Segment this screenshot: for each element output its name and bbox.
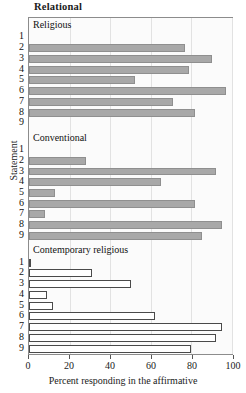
panel-bars <box>29 18 232 131</box>
y-tick-2: 2 <box>19 42 24 52</box>
bar <box>29 168 216 176</box>
bar-row <box>29 76 232 84</box>
x-tick-mark <box>233 355 234 359</box>
bar-row <box>29 291 232 299</box>
y-tick-7: 7 <box>19 96 24 106</box>
x-tick-mark <box>192 355 193 359</box>
bar <box>29 55 212 63</box>
panel-contemporary-religious: Contemporary religious <box>29 243 232 356</box>
y-axis-title: Statement <box>8 121 19 201</box>
y-tick-6: 6 <box>19 198 24 208</box>
bar-row <box>29 200 232 208</box>
y-tick-2: 2 <box>19 155 24 165</box>
bar-row <box>29 33 232 41</box>
x-tick-label-20: 20 <box>64 360 74 371</box>
y-tick-5: 5 <box>19 187 24 197</box>
x-axis: 020406080100 <box>28 355 233 356</box>
relational-bar-chart: Relational 123456789123456789123456789 S… <box>0 0 246 393</box>
bar-row <box>29 259 232 267</box>
bar <box>29 98 173 106</box>
bar <box>29 269 92 277</box>
x-tick-label-80: 80 <box>187 360 197 371</box>
bar-row <box>29 168 232 176</box>
bar-row <box>29 269 232 277</box>
y-tick-5: 5 <box>19 74 24 84</box>
bar <box>29 291 47 299</box>
y-tick-8: 8 <box>19 332 24 342</box>
bar-row <box>29 157 232 165</box>
y-tick-1: 1 <box>19 31 24 41</box>
y-tick-9: 9 <box>19 230 24 240</box>
x-tick-label-60: 60 <box>146 360 156 371</box>
bar-row <box>29 87 232 95</box>
y-tick-6: 6 <box>19 310 24 320</box>
bar-row <box>29 119 232 127</box>
bar <box>29 109 195 117</box>
bar <box>29 76 135 84</box>
bar-row <box>29 44 232 52</box>
y-tick-6: 6 <box>19 85 24 95</box>
bar <box>29 44 185 52</box>
bar <box>29 259 31 267</box>
y-tick-3: 3 <box>19 53 24 63</box>
bar-row <box>29 146 232 154</box>
bar-row <box>29 189 232 197</box>
bar-row <box>29 55 232 63</box>
x-tick-label-100: 100 <box>226 360 241 371</box>
panel-bars <box>29 131 232 244</box>
bar-row <box>29 345 232 353</box>
x-tick-mark <box>151 355 152 359</box>
y-tick-1: 1 <box>19 144 24 154</box>
x-tick-mark <box>69 355 70 359</box>
bar-row <box>29 109 232 117</box>
bar <box>29 157 86 165</box>
bar <box>29 345 191 353</box>
y-tick-2: 2 <box>19 267 24 277</box>
y-tick-5: 5 <box>19 300 24 310</box>
x-axis-title: Percent responding in the affirmative <box>0 375 246 386</box>
bar-row <box>29 66 232 74</box>
bar <box>29 280 131 288</box>
y-tick-4: 4 <box>19 64 24 74</box>
bar <box>29 302 53 310</box>
bar <box>29 323 222 331</box>
bar-row <box>29 323 232 331</box>
bar-row <box>29 98 232 106</box>
y-tick-7: 7 <box>19 321 24 331</box>
bar-row <box>29 312 232 320</box>
y-tick-1: 1 <box>19 257 24 267</box>
bar <box>29 178 161 186</box>
y-tick-7: 7 <box>19 208 24 218</box>
y-tick-4: 4 <box>19 289 24 299</box>
bar <box>29 66 189 74</box>
bar <box>29 312 155 320</box>
x-tick-mark <box>28 355 29 359</box>
bar <box>29 189 55 197</box>
bar <box>29 210 45 218</box>
bar-row <box>29 334 232 342</box>
y-tick-3: 3 <box>19 278 24 288</box>
x-tick-label-40: 40 <box>105 360 115 371</box>
panel-religious: Religious <box>29 18 232 131</box>
y-tick-9: 9 <box>19 343 24 353</box>
y-tick-8: 8 <box>19 219 24 229</box>
bar-row <box>29 280 232 288</box>
bar-row <box>29 232 232 240</box>
panel-conventional: Conventional <box>29 131 232 244</box>
bar-row <box>29 302 232 310</box>
gridline <box>232 18 233 354</box>
bar <box>29 221 222 229</box>
y-tick-4: 4 <box>19 176 24 186</box>
bar <box>29 334 216 342</box>
y-tick-9: 9 <box>19 117 24 127</box>
y-tick-3: 3 <box>19 166 24 176</box>
plot-area: ReligiousConventionalContemporary religi… <box>28 17 233 355</box>
panel-bars <box>29 243 232 356</box>
bar <box>29 232 202 240</box>
x-tick-mark <box>110 355 111 359</box>
bar-row <box>29 221 232 229</box>
page-title: Relational <box>34 1 82 12</box>
y-tick-8: 8 <box>19 107 24 117</box>
bar <box>29 200 195 208</box>
x-tick-label-0: 0 <box>26 360 31 371</box>
